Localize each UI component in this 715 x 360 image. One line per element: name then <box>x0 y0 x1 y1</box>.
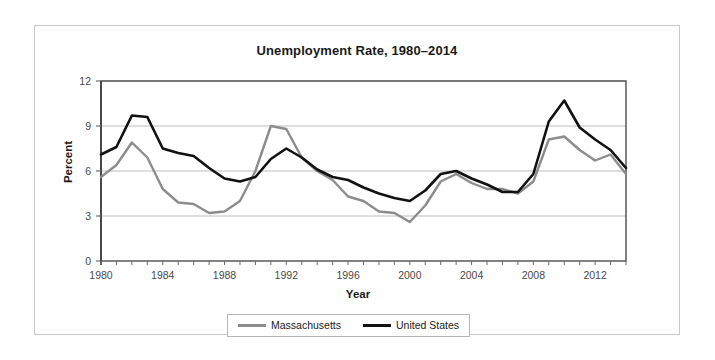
series-line-united-states <box>101 101 626 202</box>
y-tick-label: 9 <box>85 120 91 132</box>
chart-legend: Massachusetts United States <box>227 314 470 337</box>
x-tick-label: 1992 <box>275 269 299 281</box>
y-tick-label: 0 <box>85 255 91 267</box>
x-tick-label: 1984 <box>151 269 175 281</box>
x-tick-label: 1980 <box>89 269 113 281</box>
x-tick-label: 1988 <box>213 269 237 281</box>
series-line-massachusetts <box>101 126 626 222</box>
y-tick-label: 3 <box>85 210 91 222</box>
x-tick-label: 2000 <box>398 269 422 281</box>
legend-swatch-massachusetts <box>238 324 266 327</box>
x-tick-label: 1996 <box>336 269 360 281</box>
legend-swatch-united-states <box>363 324 391 327</box>
legend-entry-united-states: United States <box>363 319 459 331</box>
plot-area: 0369121980198419881992199620002004200820… <box>35 26 681 316</box>
legend-label-massachusetts: Massachusetts <box>271 319 341 331</box>
y-tick-label: 6 <box>85 165 91 177</box>
x-tick-label: 2008 <box>522 269 546 281</box>
x-tick-label: 2012 <box>583 269 607 281</box>
y-tick-label: 12 <box>79 75 91 87</box>
legend-entry-massachusetts: Massachusetts <box>238 319 341 331</box>
legend-label-united-states: United States <box>396 319 459 331</box>
x-tick-label: 2004 <box>460 269 484 281</box>
chart-figure: Unemployment Rate, 1980–2014 Percent Yea… <box>34 25 680 335</box>
